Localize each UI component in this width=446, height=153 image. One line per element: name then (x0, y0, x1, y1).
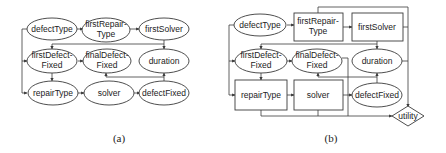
edge-defectfixed-finaldefectfixed (106, 73, 164, 77)
node-label-line1: finalDefect- (86, 50, 129, 60)
edge-repairtype-utility (261, 110, 392, 116)
node-label: defectFixed (355, 90, 399, 100)
diagram-b: defectType firstRepair- Type firstSolver… (229, 7, 424, 145)
node-repairtype: repairType (28, 81, 78, 105)
caption-a: (a) (113, 132, 126, 145)
node-label-line1: firstDefect- (31, 50, 72, 60)
edge-defectfixed-finaldefectfixed (318, 73, 377, 77)
node-defecttype: defectType (27, 18, 77, 40)
node-firstrepairtype: firstRepair- Type (294, 13, 343, 41)
node-label-line2: Fixed (42, 60, 63, 70)
node-label: defectType (239, 20, 281, 30)
node-firstdefectfixed: firstDefect- Fixed (27, 49, 77, 73)
node-firstsolver: firstSolver (139, 18, 189, 40)
node-label: solver (98, 88, 121, 98)
node-label: utility (398, 111, 418, 121)
edge-defecttype-repairtype (229, 25, 235, 95)
edge-firstsolver-firstdefectfixed (261, 44, 377, 49)
node-firstsolver: firstSolver (352, 13, 403, 41)
node-label: defectFixed (142, 88, 186, 98)
node-solver: solver (294, 80, 343, 110)
node-label: repairType (33, 88, 73, 98)
node-label-line1: finalDefect- (296, 50, 339, 60)
node-defecttype: defectType (234, 14, 286, 36)
figure: defectType firstRepair- Type firstSolver… (0, 0, 446, 153)
node-defectfixed: defectFixed (139, 81, 189, 105)
node-duration: duration (139, 49, 189, 73)
node-label-line2: Type (309, 26, 328, 36)
node-label-line1: firstDefect- (240, 50, 281, 60)
node-defectfixed: defectFixed (352, 83, 402, 107)
node-label-line2: Fixed (251, 60, 272, 70)
node-duration: duration (352, 49, 402, 73)
node-label-line1: firstRepair- (85, 19, 127, 29)
node-label-line1: firstRepair- (297, 16, 339, 26)
node-utility: utility (392, 106, 424, 126)
node-label-line2: Fixed (97, 60, 118, 70)
node-label: duration (149, 56, 180, 66)
node-repairtype: repairType (235, 80, 287, 110)
node-solver: solver (84, 81, 134, 105)
node-finaldefectfixed: finalDefect- Fixed (292, 49, 342, 73)
node-label-line2: Fixed (307, 60, 328, 70)
node-label-line2: Type (97, 29, 116, 39)
node-label: solver (307, 90, 330, 100)
node-label: firstSolver (358, 22, 396, 32)
node-firstrepairtype: firstRepair- Type (82, 18, 130, 42)
node-label: firstSolver (145, 24, 183, 34)
caption-b: (b) (325, 132, 338, 145)
node-firstdefectfixed: firstDefect- Fixed (235, 49, 287, 73)
edge-firstsolver-firstdefectfixed (52, 44, 164, 49)
node-finaldefectfixed: finalDefect- Fixed (83, 49, 131, 73)
node-label: repairType (241, 90, 281, 100)
diagram-a: defectType firstRepair- Type firstSolver… (22, 18, 189, 145)
node-label: defectType (31, 24, 73, 34)
node-label: duration (362, 56, 393, 66)
